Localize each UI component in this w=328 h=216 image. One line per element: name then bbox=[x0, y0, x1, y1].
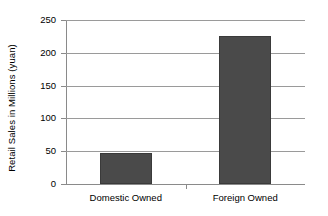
gridline bbox=[66, 20, 305, 21]
x-axis-separator-tick bbox=[186, 184, 187, 189]
y-axis-tick-label: 50 bbox=[16, 146, 56, 156]
y-axis-tick-label: 150 bbox=[16, 81, 56, 91]
y-axis-tick-label: 250 bbox=[16, 15, 56, 25]
bar bbox=[219, 36, 271, 184]
x-axis-tick-label: Foreign Owned bbox=[186, 192, 306, 203]
y-axis-tick-label: 0 bbox=[16, 179, 56, 189]
y-axis-tick-label: 200 bbox=[16, 48, 56, 58]
bar-chart: Retail Sales in Millions (yuan) 05010015… bbox=[0, 0, 328, 216]
plot-area bbox=[66, 20, 305, 184]
y-axis-tick-label: 100 bbox=[16, 113, 56, 123]
bar bbox=[100, 153, 152, 184]
x-axis-tick-label: Domestic Owned bbox=[66, 192, 186, 203]
